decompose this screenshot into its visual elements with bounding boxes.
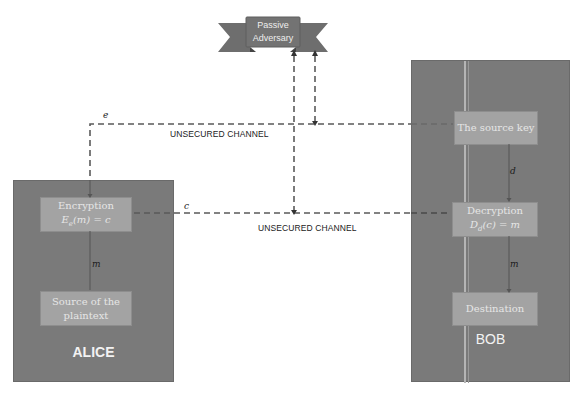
var-m-bob: m [510,259,519,269]
var-d: d [510,166,516,176]
bottom-channel-label: UNSECURED CHANNEL [258,223,357,233]
var-c: c [184,201,189,211]
adversary-label-line1: Passive [246,19,300,32]
adversary-label: Passive Adversary [246,19,300,45]
adversary-label-line2: Adversary [246,32,300,45]
top-channel-label: UNSECURED CHANNEL [170,129,269,139]
var-e: e [103,110,108,120]
var-m-alice: m [92,259,101,269]
connector-lines [0,0,583,393]
